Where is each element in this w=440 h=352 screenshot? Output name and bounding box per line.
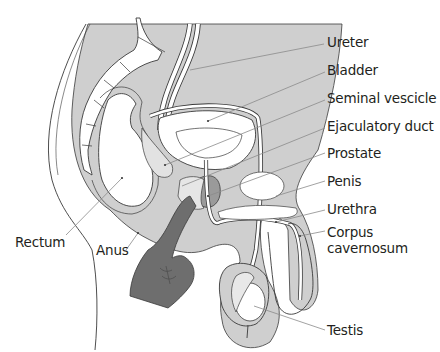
label-ejaculatory-duct: Ejaculatory duct xyxy=(327,119,434,134)
label-bladder: Bladder xyxy=(327,63,378,78)
label-anus: Anus xyxy=(96,243,129,258)
label-corpus: Corpus xyxy=(327,225,373,240)
label-rectum: Rectum xyxy=(15,235,65,250)
label-cavernosum: cavernosum xyxy=(327,241,408,256)
label-ureter: Ureter xyxy=(327,35,368,50)
label-seminal-vesicle: Seminal vescicle xyxy=(327,91,436,106)
label-testis: Testis xyxy=(327,323,363,338)
label-urethra: Urethra xyxy=(327,202,377,217)
anatomy-illustration xyxy=(0,0,440,352)
label-penis: Penis xyxy=(327,174,361,189)
label-prostate: Prostate xyxy=(327,146,381,161)
